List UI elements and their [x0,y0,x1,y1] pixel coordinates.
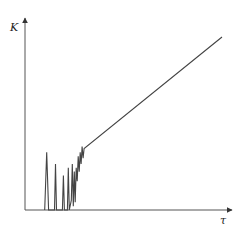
y-axis-label: K [9,21,19,34]
chart: K τ [0,0,241,228]
x-axis-label: τ [220,214,227,227]
data-line [45,37,222,210]
